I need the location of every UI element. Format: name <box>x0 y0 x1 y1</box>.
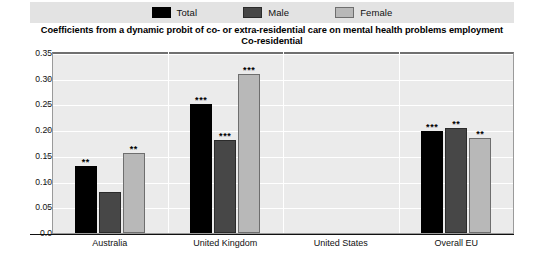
significance-marker: ** <box>130 145 138 153</box>
legend-item-female: Female <box>335 7 392 18</box>
chart-title-line1: Coefficients from a dynamic probit of co… <box>0 25 544 36</box>
chart-page: TotalMaleFemale Coefficients from a dyna… <box>0 0 544 267</box>
chart-title-line2: Co-residential <box>0 36 544 47</box>
bar-groups: ******************** <box>52 52 514 233</box>
significance-marker: *** <box>243 66 255 74</box>
bar-female-overall-eu[interactable]: ** <box>469 138 491 233</box>
x-axis-label-united-kingdom: United Kingdom <box>168 238 284 252</box>
significance-marker: *** <box>195 96 207 104</box>
x-axis-label-australia: Australia <box>52 238 168 252</box>
bar-slot: ** <box>123 52 145 233</box>
bar-slot: ** <box>75 52 97 233</box>
bar-group-australia: **** <box>52 52 168 233</box>
legend-item-label: Male <box>268 7 289 18</box>
x-axis-labels: AustraliaUnited KingdomUnited StatesOver… <box>52 238 514 252</box>
significance-marker: *** <box>219 132 231 140</box>
y-axis-tick-mark <box>46 155 50 156</box>
bar-group-united-states <box>283 52 399 233</box>
legend-item-male: Male <box>243 7 289 18</box>
chart-legend: TotalMaleFemale <box>30 2 514 23</box>
y-axis-tick-mark <box>46 207 50 208</box>
y-axis: 0.00.050.100.150.200.250.300.35 <box>0 52 52 234</box>
legend-swatch-total <box>152 7 171 18</box>
y-axis-tick-label: 0.35 <box>6 48 52 58</box>
legend-item-label: Female <box>360 7 392 18</box>
chart-title: Coefficients from a dynamic probit of co… <box>0 25 544 47</box>
x-axis-label-united-states: United States <box>283 238 399 252</box>
y-axis-tick-mark <box>46 104 50 105</box>
bar-male-united-kingdom[interactable]: *** <box>214 140 236 233</box>
significance-marker: *** <box>426 123 438 131</box>
bar-slot: *** <box>421 52 443 233</box>
bar-female-united-kingdom[interactable]: *** <box>238 74 260 233</box>
legend-swatch-female <box>335 7 354 18</box>
significance-marker: ** <box>82 158 90 166</box>
bar-slot: *** <box>214 52 236 233</box>
y-axis-tick-label: 0.0 <box>6 228 52 238</box>
bar-total-overall-eu[interactable]: *** <box>421 131 443 233</box>
significance-marker: ** <box>452 120 460 128</box>
bar-slot: ** <box>469 52 491 233</box>
legend-item-total: Total <box>152 7 198 18</box>
bar-slot: *** <box>238 52 260 233</box>
bar-male-overall-eu[interactable]: ** <box>445 128 467 233</box>
bar-slot <box>306 52 328 233</box>
bar-group-overall-eu: ******* <box>399 52 515 233</box>
bar-slot: ** <box>445 52 467 233</box>
y-axis-tick-mark <box>46 130 50 131</box>
x-axis-label-overall-eu: Overall EU <box>399 238 515 252</box>
bar-group-united-kingdom: ********* <box>168 52 284 233</box>
legend-item-label: Total <box>177 7 198 18</box>
bar-slot <box>354 52 376 233</box>
bar-slot <box>330 52 352 233</box>
x-axis-line <box>30 234 514 235</box>
significance-marker: ** <box>476 130 484 138</box>
legend-swatch-male <box>243 7 262 18</box>
bar-slot <box>99 52 121 233</box>
y-axis-tick-mark <box>46 78 50 79</box>
y-axis-tick-mark <box>46 181 50 182</box>
bar-male-australia[interactable] <box>99 192 121 233</box>
bar-total-united-kingdom[interactable]: *** <box>190 104 212 233</box>
bar-female-australia[interactable]: ** <box>123 153 145 233</box>
bar-total-australia[interactable]: ** <box>75 166 97 233</box>
bar-slot: *** <box>190 52 212 233</box>
